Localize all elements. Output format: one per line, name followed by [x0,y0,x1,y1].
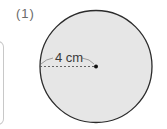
radius-label: 4 cm [55,50,83,65]
circle-figure: 4 cm [0,0,167,129]
center-dot [94,65,98,69]
